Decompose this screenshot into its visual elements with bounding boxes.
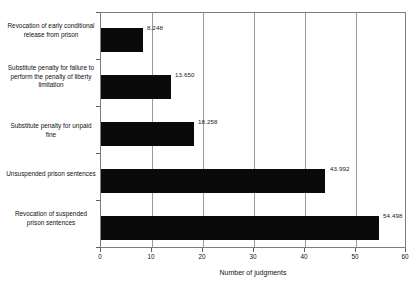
category-label-2: Substitute penalty for unpaid fine bbox=[6, 122, 96, 139]
bar-0 bbox=[101, 28, 143, 52]
x-axis-label-10: 10 bbox=[139, 253, 163, 261]
gridline-30 bbox=[254, 13, 255, 247]
x-axis-title: Number of judgments bbox=[100, 268, 406, 277]
bar-chart: Revocation of early conditional release … bbox=[0, 0, 420, 289]
x-axis-tick-60 bbox=[405, 248, 406, 252]
category-label-1: Substitute penalty for failure to perfor… bbox=[6, 64, 96, 90]
value-label-2: 18.258 bbox=[198, 118, 218, 125]
category-label-3: Unsuspended prison sentences bbox=[6, 170, 96, 179]
value-label-1: 13.650 bbox=[175, 71, 195, 78]
x-axis-tick-20 bbox=[202, 248, 203, 252]
bar-3 bbox=[101, 169, 325, 193]
x-axis-tick-40 bbox=[304, 248, 305, 252]
x-axis-label-0: 0 bbox=[88, 253, 112, 261]
gridline-50 bbox=[356, 13, 357, 247]
x-axis-tick-0 bbox=[100, 248, 101, 252]
value-label-3: 43.992 bbox=[330, 165, 350, 172]
bar-1 bbox=[101, 75, 171, 99]
x-axis-label-50: 50 bbox=[343, 253, 367, 261]
x-axis-label-30: 30 bbox=[241, 253, 265, 261]
bar-4 bbox=[101, 216, 379, 240]
x-axis-tick-30 bbox=[253, 248, 254, 252]
bar-2 bbox=[101, 122, 194, 146]
x-axis-label-40: 40 bbox=[292, 253, 316, 261]
value-label-0: 8.248 bbox=[147, 24, 163, 31]
gridline-20 bbox=[203, 13, 204, 247]
x-axis-tick-50 bbox=[355, 248, 356, 252]
x-axis-label-60: 60 bbox=[393, 253, 417, 261]
x-axis-label-20: 20 bbox=[190, 253, 214, 261]
category-label-4: Revocation of suspended prison sentences bbox=[6, 210, 96, 227]
plot-area bbox=[100, 12, 406, 248]
gridline-40 bbox=[305, 13, 306, 247]
x-axis-tick-10 bbox=[151, 248, 152, 252]
value-label-4: 54.498 bbox=[383, 212, 403, 219]
category-label-0: Revocation of early conditional release … bbox=[6, 22, 96, 39]
